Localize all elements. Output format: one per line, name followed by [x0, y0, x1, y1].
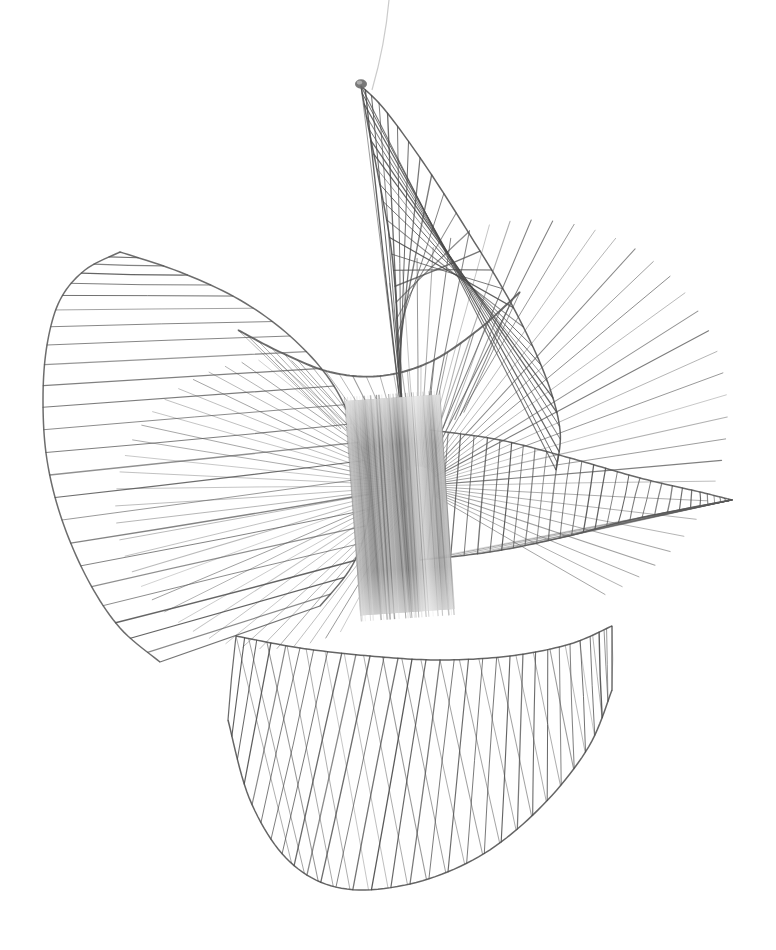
central-wire-bundle	[344, 390, 455, 621]
sculpture-canvas: Hanging wire sculpture suspended ruled-s…	[0, 0, 776, 950]
apex-knot	[355, 79, 367, 88]
wire-sculpture-image	[0, 0, 776, 950]
